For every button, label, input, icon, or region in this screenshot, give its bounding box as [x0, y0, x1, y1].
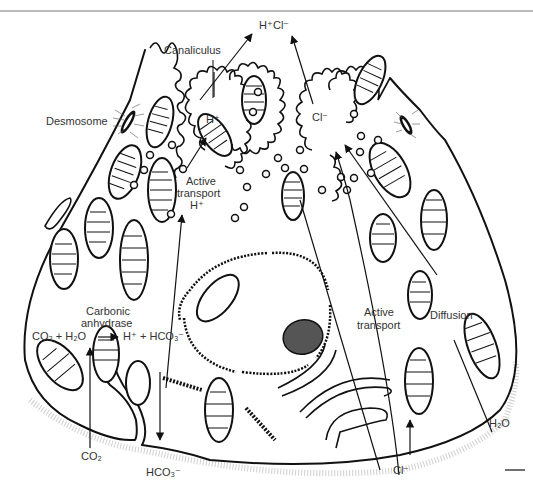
mitochondria [28, 51, 506, 442]
rough-endoplasmic-reticulum [163, 345, 391, 448]
label-active-transport-cl-1: Active [364, 306, 394, 318]
label-hcl-output: H⁺Cl⁻ [259, 19, 289, 31]
label-h-plus: H⁺ [206, 113, 220, 125]
label-reaction-left: CO₂ + H₂O [32, 330, 87, 342]
desmosome-right [394, 110, 420, 138]
desmosome-left [113, 104, 144, 138]
label-carbonic-anhydrase-1: Carbonic [86, 305, 131, 317]
label-carbonic-anhydrase-2: anhydrase [81, 317, 132, 329]
label-co2-input: CO₂ [81, 450, 102, 462]
label-reaction-right: H⁺ + HCO₃⁻ [123, 330, 184, 342]
label-active-transport-h-2: transport [177, 187, 220, 199]
vacuole [45, 198, 71, 229]
label-cl-input: Cl⁻ [393, 464, 409, 476]
label-canaliculus: Canaliculus [164, 44, 221, 56]
transport-arrows [90, 34, 525, 475]
label-diffusion: Diffusion [430, 309, 473, 321]
label-hco3-output: HCO₃⁻ [146, 466, 181, 478]
label-desmosome: Desmosome [46, 115, 108, 127]
label-active-transport-h-1: Active [186, 175, 216, 187]
parietal-cell-diagram: H⁺Cl⁻ Canaliculus Desmosome H⁺ Cl⁻ Activ… [0, 0, 533, 497]
label-active-transport-cl-2: transport [357, 319, 400, 331]
label-h2o-input: H₂O [489, 417, 510, 429]
label-active-transport-h-3: H⁺ [190, 199, 204, 211]
label-cl-minus-canaliculus: Cl⁻ [312, 111, 328, 123]
